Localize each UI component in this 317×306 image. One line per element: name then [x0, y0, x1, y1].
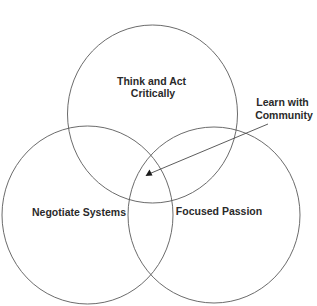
callout-arrow-line: [150, 124, 268, 174]
label-line: Learn with: [256, 96, 309, 108]
label-line: Think and Act: [117, 75, 187, 87]
label-line: Critically: [131, 87, 176, 99]
circle-think-and-act-critically: [68, 25, 238, 203]
venn-diagram: Think and Act Critically Negotiate Syste…: [0, 0, 317, 306]
label-focused-passion: Focused Passion: [176, 205, 262, 217]
label-think-and-act-critically: Think and Act Critically: [117, 75, 189, 99]
label-line: Community: [255, 109, 313, 121]
label-learn-with-community: Learn with Community: [255, 96, 313, 121]
label-negotiate-systems: Negotiate Systems: [32, 206, 126, 218]
